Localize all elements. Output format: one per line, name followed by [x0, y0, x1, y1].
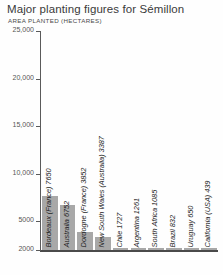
y-axis-tick-label: 20,000	[13, 74, 34, 81]
y-axis-tick: 2000	[0, 250, 40, 251]
bar-group[interactable]: Dordogne (France) 3852	[76, 31, 94, 250]
bar-label: Dordogne (France) 3852	[80, 167, 87, 247]
bar-group[interactable]: Uruguay 650	[183, 31, 201, 250]
bar-group[interactable]: California (USA) 439	[200, 31, 218, 250]
bar-group[interactable]: New South Wales (Australia) 3387	[94, 31, 112, 250]
bar-label: Brazil 832	[168, 215, 175, 247]
bar[interactable]	[183, 248, 201, 250]
bar-label: Chile 1727	[115, 212, 122, 247]
chart-card: Major planting figures for Sémillon AREA…	[0, 0, 223, 275]
bar-group[interactable]: Brazil 832	[165, 31, 183, 250]
y-axis-tick-label: 2000	[18, 245, 34, 252]
bar-group[interactable]: South Africa 1085	[147, 31, 165, 250]
y-axis-tick-label: 25,000	[13, 26, 34, 33]
bar-group[interactable]: Argentina 1261	[130, 31, 148, 250]
bar-group[interactable]: Australia 6752	[59, 31, 77, 250]
bar-group[interactable]: Bordeaux (France) 7650	[41, 31, 59, 250]
bar-label: Bordeaux (France) 7650	[45, 168, 52, 247]
y-axis-tick: 10,000	[0, 174, 40, 175]
y-axis-tick: 25,000	[0, 31, 40, 32]
chart-title: Major planting figures for Sémillon	[7, 3, 184, 15]
chart-subtitle: AREA PLANTED (HECTARES)	[8, 17, 102, 24]
y-axis-tick-label: 10,000	[13, 169, 34, 176]
bar[interactable]	[112, 248, 130, 250]
bar[interactable]	[200, 248, 218, 250]
y-axis-tick: 5000	[0, 221, 40, 222]
bar-label: Australia 6752	[62, 200, 69, 247]
bar-label: Argentina 1261	[133, 198, 140, 247]
bar-label: South Africa 1085	[151, 189, 158, 247]
y-axis-tick-mark	[36, 250, 41, 251]
bar-label: New South Wales (Australia) 3387	[98, 136, 105, 247]
x-axis-line	[40, 250, 218, 252]
y-axis-tick: 15,000	[0, 126, 40, 127]
y-axis-tick: 20,000	[0, 79, 40, 80]
bars-layer: Bordeaux (France) 7650Australia 6752Dord…	[41, 31, 218, 250]
y-axis-tick-label: 15,000	[13, 121, 34, 128]
bar[interactable]	[165, 248, 183, 250]
y-axis-tick-label: 5000	[18, 216, 34, 223]
bar[interactable]	[147, 248, 165, 250]
bar-label: Uruguay 650	[186, 205, 193, 247]
bar-label: California (USA) 439	[204, 180, 211, 247]
bar-group[interactable]: Chile 1727	[112, 31, 130, 250]
bar[interactable]	[130, 248, 148, 250]
